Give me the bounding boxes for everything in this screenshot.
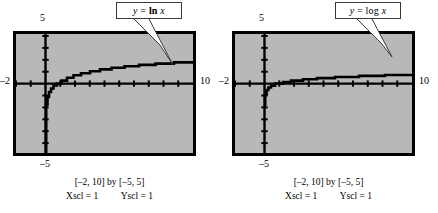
callout-equals: = bbox=[140, 5, 146, 16]
axis-label-left-right-panel: –2 bbox=[219, 76, 229, 86]
callout-var-x: x bbox=[160, 5, 165, 16]
callout-var-y: y bbox=[350, 5, 355, 16]
axis-label-right-left-panel: 10 bbox=[200, 76, 210, 86]
caption-scales-log: Xscl = 1 Yscl = 1 bbox=[219, 190, 438, 203]
callout-box-log: y = log x bbox=[335, 2, 401, 19]
axis-label-top-right-panel: 5 bbox=[259, 13, 264, 23]
callout-label-log: y = log x bbox=[350, 5, 387, 16]
axes-ln bbox=[16, 34, 193, 153]
callout-label-ln: y = ln x bbox=[133, 5, 165, 16]
calculator-screen-ln bbox=[13, 31, 196, 156]
caption-yscl-ln: Yscl = 1 bbox=[121, 191, 153, 201]
caption-window-range-ln: [–2, 10] by [–5, 5] bbox=[0, 176, 219, 189]
caption-yscl-log: Yscl = 1 bbox=[340, 191, 372, 201]
callout-var-x: x bbox=[382, 5, 387, 16]
panel-ln: 5 –5 –2 10 bbox=[0, 0, 219, 213]
callout-function-name: log bbox=[366, 5, 379, 16]
calculator-screen-log bbox=[232, 31, 415, 156]
panel-log: 5 –5 –2 10 bbox=[219, 0, 438, 213]
callout-function-name: ln bbox=[149, 5, 158, 16]
graph-canvas-ln bbox=[16, 34, 193, 153]
caption-xscl-ln: Xscl = 1 bbox=[66, 191, 98, 201]
axes-log bbox=[235, 34, 412, 153]
callout-box-ln: y = ln x bbox=[116, 2, 182, 19]
graph-canvas-log bbox=[235, 34, 412, 153]
axis-label-top-left-panel: 5 bbox=[40, 13, 45, 23]
axis-label-left-left-panel: –2 bbox=[0, 76, 10, 86]
curve-ln bbox=[46, 62, 193, 153]
axis-label-bottom-left-panel: –5 bbox=[40, 159, 50, 169]
caption-xscl-log: Xscl = 1 bbox=[285, 191, 317, 201]
callout-equals: = bbox=[357, 5, 363, 16]
axis-label-right-right-panel: 10 bbox=[419, 76, 429, 86]
caption-scales-ln: Xscl = 1 Yscl = 1 bbox=[0, 190, 219, 203]
caption-ln: [–2, 10] by [–5, 5] Xscl = 1 Yscl = 1 bbox=[0, 176, 219, 203]
caption-window-range-log: [–2, 10] by [–5, 5] bbox=[219, 176, 438, 189]
caption-log: [–2, 10] by [–5, 5] Xscl = 1 Yscl = 1 bbox=[219, 176, 438, 203]
logarithm-graphs-figure: 5 –5 –2 10 bbox=[0, 0, 438, 213]
curve-log bbox=[265, 75, 412, 106]
axis-label-bottom-right-panel: –5 bbox=[259, 159, 269, 169]
callout-var-y: y bbox=[133, 5, 138, 16]
